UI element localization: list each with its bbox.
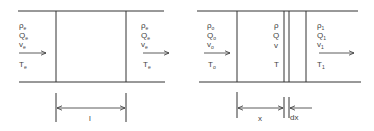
svg-text:T: T [274, 60, 279, 69]
inlet-state-labels: ρe Qe ve Te [19, 21, 28, 70]
outlet-state-labels: ρ1 Q1 v1 T1 [317, 21, 326, 70]
diagram-differential-segment: ρo Qo vo To ρ Q v T ρ1 Q1 v1 T1 x [197, 11, 361, 123]
dx-label: dx [290, 113, 298, 122]
x-label: x [258, 114, 262, 123]
inlet-state-labels: ρo Qo vo To [207, 21, 216, 70]
svg-text:ρe: ρe [141, 21, 149, 31]
diagram-uniform-segment: ρe Qe ve Te ρe Qe ve Te l [18, 11, 169, 123]
svg-text:ve: ve [141, 40, 148, 50]
pipe-flow-diagrams: ρe Qe ve Te ρe Qe ve Te l ρ [0, 0, 374, 131]
dimension-length-l: l [56, 93, 126, 123]
svg-text:vo: vo [207, 40, 214, 50]
outlet-state-labels: ρe Qe ve Te [141, 21, 151, 70]
svg-text:ve: ve [19, 40, 26, 50]
svg-text:Q: Q [273, 31, 279, 40]
svg-text:ρe: ρe [19, 21, 27, 31]
svg-text:v1: v1 [317, 40, 324, 50]
dimension-x-dx: x dx [237, 92, 312, 123]
svg-text:ρ1: ρ1 [317, 21, 325, 31]
svg-text:ρ: ρ [274, 21, 279, 30]
svg-text:Te: Te [19, 60, 27, 70]
svg-text:Te: Te [143, 60, 151, 70]
svg-text:To: To [208, 60, 216, 70]
svg-text:ρo: ρo [207, 21, 215, 31]
length-label: l [89, 114, 91, 123]
svg-text:T1: T1 [317, 60, 325, 70]
element-state-labels: ρ Q v T [273, 21, 279, 69]
svg-text:v: v [274, 41, 278, 50]
